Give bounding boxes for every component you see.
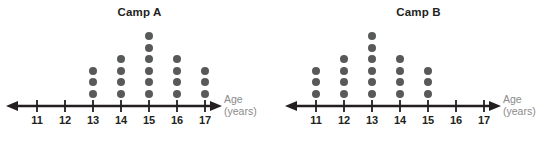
dot	[89, 90, 97, 98]
dot	[145, 90, 153, 98]
dot	[424, 90, 432, 98]
tick-label-17: 17	[192, 114, 218, 126]
tick-label-16: 16	[443, 114, 469, 126]
dot	[368, 32, 376, 40]
dot	[117, 90, 125, 98]
dot	[145, 78, 153, 86]
tick-label-13: 13	[359, 114, 385, 126]
dot	[368, 90, 376, 98]
dot	[340, 55, 348, 63]
tick-label-14: 14	[387, 114, 413, 126]
dot	[173, 55, 181, 63]
tick-label-12: 12	[331, 114, 357, 126]
dot	[340, 78, 348, 86]
tick-label-16: 16	[164, 114, 190, 126]
dot	[396, 78, 404, 86]
dot	[340, 67, 348, 75]
dot	[396, 90, 404, 98]
tick-label-15: 15	[136, 114, 162, 126]
axis-label-line1: Age	[503, 94, 536, 106]
axis-label-camp-b: Age (years)	[503, 94, 536, 117]
dot	[145, 44, 153, 52]
axis-label-line1: Age	[224, 94, 257, 106]
dot	[117, 67, 125, 75]
axis-label-line2: (years)	[503, 106, 536, 118]
tick-label-15: 15	[415, 114, 441, 126]
plot-title-camp-a: Camp A	[0, 6, 279, 18]
dot	[117, 55, 125, 63]
dot	[312, 90, 320, 98]
dot	[145, 32, 153, 40]
dot	[424, 78, 432, 86]
dot	[201, 67, 209, 75]
dot-plot-camp-a: Camp A Age (years) 11121314151617	[0, 0, 279, 142]
dot	[201, 78, 209, 86]
dot	[145, 55, 153, 63]
dot	[173, 67, 181, 75]
dot	[89, 78, 97, 86]
dot	[173, 78, 181, 86]
dot	[201, 90, 209, 98]
dot-plot-figure: Camp A Age (years) 11121314151617 Camp B	[0, 0, 558, 142]
axis-label-line2: (years)	[224, 106, 257, 118]
tick-label-13: 13	[80, 114, 106, 126]
dot	[117, 78, 125, 86]
dot	[89, 67, 97, 75]
dot	[396, 55, 404, 63]
dot	[145, 67, 153, 75]
dot	[368, 44, 376, 52]
tick-label-11: 11	[24, 114, 50, 126]
plot-title-camp-b: Camp B	[279, 6, 558, 18]
dot	[173, 90, 181, 98]
dot	[312, 78, 320, 86]
tick-label-17: 17	[471, 114, 497, 126]
dot	[424, 67, 432, 75]
dot	[368, 78, 376, 86]
dot	[340, 90, 348, 98]
dot	[368, 55, 376, 63]
dot-plot-camp-b: Camp B Age (years) 11121314151617	[279, 0, 558, 142]
dot	[396, 67, 404, 75]
tick-label-14: 14	[108, 114, 134, 126]
dot	[368, 67, 376, 75]
tick-label-11: 11	[303, 114, 329, 126]
axis-label-camp-a: Age (years)	[224, 94, 257, 117]
tick-label-12: 12	[52, 114, 78, 126]
dot	[312, 67, 320, 75]
